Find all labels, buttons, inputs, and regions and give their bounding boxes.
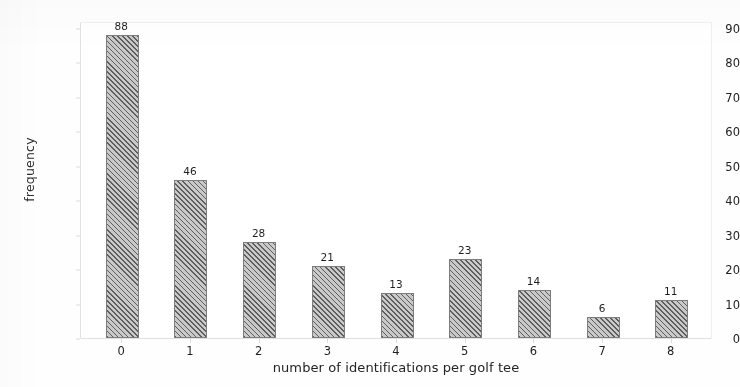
y-axis-spine: [80, 23, 81, 338]
x-axis-tick-label: 1: [186, 344, 193, 358]
bar[interactable]: [655, 300, 688, 338]
x-axis-tick-label: 2: [255, 344, 262, 358]
x-axis-tick-label: 7: [598, 344, 605, 358]
bar[interactable]: [587, 317, 620, 338]
bar-value-label: 14: [527, 275, 540, 287]
x-axis-tick-mark: [259, 339, 260, 343]
x-axis-tick-mark: [396, 339, 397, 343]
bar-value-label: 28: [252, 227, 265, 239]
bar-value-label: 13: [389, 278, 402, 290]
bar[interactable]: [106, 35, 139, 338]
x-axis-tick-mark: [465, 339, 466, 343]
bar[interactable]: [449, 259, 482, 338]
x-axis-tick-mark: [533, 339, 534, 343]
x-axis-tick-label: 5: [461, 344, 468, 358]
x-axis-tick-label: 3: [324, 344, 331, 358]
x-axis-tick-mark: [671, 339, 672, 343]
bar-value-label: 23: [458, 244, 471, 256]
x-axis-tick-mark: [190, 339, 191, 343]
bar-value-label: 6: [599, 302, 606, 314]
bar[interactable]: [174, 180, 207, 339]
chart-figure: frequency 0102030405060708090 012345678 …: [0, 0, 740, 387]
x-axis-tick-label: 0: [118, 344, 125, 358]
x-axis-tick-label: 4: [392, 344, 399, 358]
plot-area: [80, 22, 712, 339]
bar[interactable]: [243, 242, 276, 338]
y-axis-title: frequency: [18, 0, 40, 339]
x-axis-tick-mark: [327, 339, 328, 343]
x-axis-tick-mark: [121, 339, 122, 343]
x-axis-tick-label: 8: [667, 344, 674, 358]
bar-value-label: 21: [321, 251, 334, 263]
bar[interactable]: [312, 266, 345, 338]
bar-value-label: 88: [115, 20, 128, 32]
bar-value-label: 11: [664, 285, 677, 297]
x-axis-tick-mark: [602, 339, 603, 343]
bar[interactable]: [381, 293, 414, 338]
bar-value-label: 46: [183, 165, 196, 177]
y-axis-title-text: frequency: [22, 137, 37, 202]
x-axis-tick-label: 6: [530, 344, 537, 358]
bar[interactable]: [518, 290, 551, 338]
x-axis-title: number of identifications per golf tee: [80, 360, 712, 375]
